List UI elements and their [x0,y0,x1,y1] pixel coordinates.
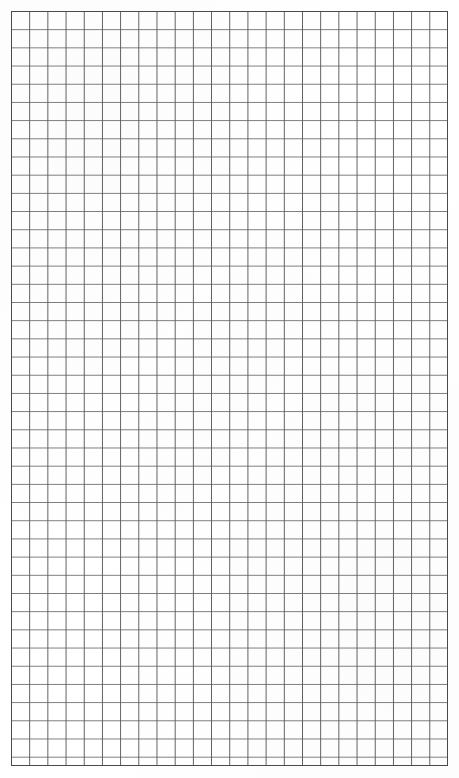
grid-area[interactable] [11,11,448,766]
graph-paper-sheet [0,0,459,778]
page-margin-left [0,0,11,778]
grid-ruling-lines [11,11,448,766]
page-margin-top [0,0,459,11]
page-margin-bottom [0,766,459,778]
page-margin-right [448,0,459,778]
